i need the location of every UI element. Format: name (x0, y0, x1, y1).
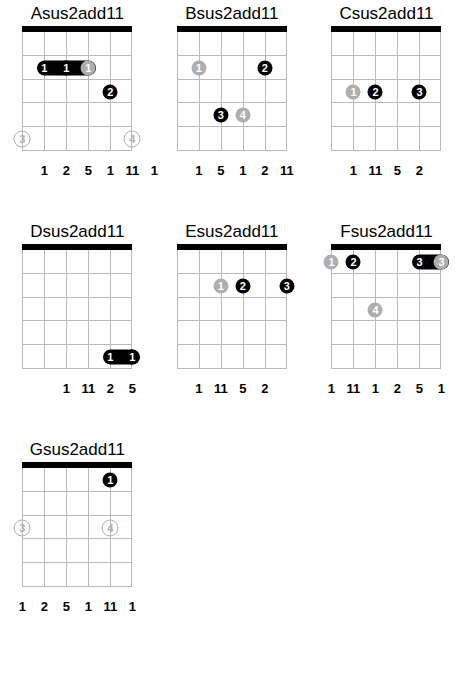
fret-lines (177, 32, 287, 151)
chord-name: Csus2add11 (339, 0, 433, 26)
fret-line (177, 344, 287, 345)
finger-marker: 1 (59, 60, 74, 75)
fret-line (177, 273, 287, 274)
degree-labels: 11125 (0, 381, 155, 397)
fret-line (22, 344, 132, 345)
finger-marker-muted: 4 (102, 519, 119, 536)
fret-line (331, 344, 441, 345)
chord-diagram: Dsus2add111111125 (0, 218, 155, 436)
degree-label: 11 (342, 381, 364, 396)
finger-marker: 2 (368, 84, 383, 99)
finger-marker: 1 (125, 350, 140, 365)
degree-label: 2 (55, 163, 77, 178)
finger-marker: 2 (346, 254, 361, 269)
degree-label: 2 (386, 381, 408, 396)
finger-marker: 1 (191, 60, 206, 75)
finger-marker: 3 (279, 278, 294, 293)
chord-name: Dsus2add11 (30, 218, 124, 244)
chord-chart-sheet: Asus2add111112341251111Bsus2add111234151… (0, 0, 464, 678)
fret-line (177, 55, 287, 56)
finger-number: 1 (103, 350, 118, 365)
degree-labels: 1251111 (0, 599, 155, 615)
finger-marker: 1 (103, 472, 118, 487)
chord-diagram: Esus2add1112311152 (155, 218, 310, 436)
finger-marker: 4 (235, 108, 250, 123)
fret-line (331, 55, 441, 56)
string-line (66, 250, 67, 369)
fret-line (22, 273, 132, 274)
string-line (44, 468, 45, 587)
fret-line (177, 79, 287, 80)
string-line (177, 250, 178, 369)
degree-label: 1 (11, 599, 33, 614)
string-line (286, 32, 287, 151)
degree-labels: 11152 (309, 163, 464, 179)
degree-label: 1 (33, 163, 55, 178)
degree-label: 1 (188, 381, 210, 396)
string-line (331, 32, 332, 151)
fret-line (177, 102, 287, 103)
finger-number: 1 (37, 60, 52, 75)
degree-label: 11 (276, 163, 298, 178)
fret-line (22, 538, 132, 539)
string-line (221, 250, 222, 369)
finger-marker-muted: 4 (124, 131, 141, 148)
string-line (88, 468, 89, 587)
degree-label: 11 (99, 599, 121, 614)
chord-diagram: Gsus2add111341251111 (0, 436, 155, 654)
fret-line (331, 126, 441, 127)
degree-label: 2 (408, 163, 430, 178)
degree-label: 1 (232, 163, 254, 178)
fret-line (331, 320, 441, 321)
fret-line (22, 126, 132, 127)
fret-line (22, 102, 132, 103)
fret-line (22, 79, 132, 80)
degree-label: 1 (55, 381, 77, 396)
finger-marker: 1 (346, 84, 361, 99)
fret-line (177, 126, 287, 127)
fret-line (22, 297, 132, 298)
fretboard: 111234 (22, 26, 132, 151)
finger-marker: 1 (324, 254, 339, 269)
degree-label: 1 (121, 599, 143, 614)
finger-marker: 3 (434, 254, 449, 269)
degree-label: 1 (430, 381, 452, 396)
degree-label: 5 (210, 163, 232, 178)
chord-name: Asus2add11 (31, 0, 124, 26)
string-line (440, 32, 441, 151)
finger-marker-muted: 3 (14, 131, 31, 148)
finger-marker: 2 (103, 84, 118, 99)
degree-label: 1 (188, 163, 210, 178)
degree-label: 11 (77, 381, 99, 396)
string-line (66, 468, 67, 587)
degree-label: 1 (99, 163, 121, 178)
chord-diagram: Fsus2add11123341111251 (309, 218, 464, 436)
finger-number: 3 (412, 254, 427, 269)
degree-label: 5 (77, 163, 99, 178)
chord-diagram: Csus2add1112311152 (309, 0, 464, 218)
fretboard: 1234 (177, 26, 287, 151)
degree-label: 11 (364, 163, 386, 178)
finger-marker: 1 (81, 60, 96, 75)
chord-name: Fsus2add11 (340, 218, 432, 244)
finger-marker: 2 (257, 60, 272, 75)
degree-label: 5 (386, 163, 408, 178)
degree-labels: 11152 (155, 381, 310, 397)
degree-label: 1 (77, 599, 99, 614)
string-line (243, 250, 244, 369)
fretboard: 12334 (331, 244, 441, 369)
fret-line (22, 55, 132, 56)
fret-line (22, 320, 132, 321)
finger-marker: 4 (368, 302, 383, 317)
finger-marker: 3 (412, 84, 427, 99)
fret-line (22, 491, 132, 492)
degree-label: 2 (254, 381, 276, 396)
fret-line (22, 586, 132, 587)
string-line (199, 250, 200, 369)
degree-label: 2 (99, 381, 121, 396)
fretboard: 123 (331, 26, 441, 151)
degree-labels: 1111251 (309, 381, 464, 397)
string-line (199, 32, 200, 151)
string-line (265, 250, 266, 369)
string-line (131, 468, 132, 587)
